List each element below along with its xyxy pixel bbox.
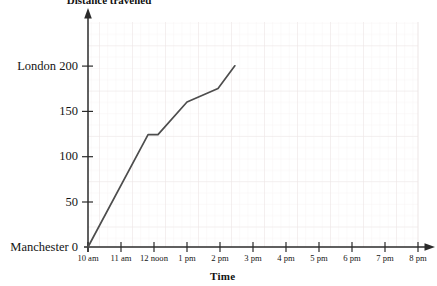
y-tick-label-100: 100 <box>0 150 78 163</box>
line-chart: Distance travelled <box>0 0 437 286</box>
y-tick-label-50: 50 <box>0 196 78 209</box>
x-axis-title: Time <box>210 270 235 282</box>
y-tick-label-0: Manchester 0 <box>0 241 78 254</box>
grid-area <box>88 22 418 247</box>
y-tick-label-150: 150 <box>0 105 78 118</box>
x-tick-label-8pm: 8 pm <box>396 254 437 263</box>
y-tick-label-200: London 200 <box>0 60 78 73</box>
